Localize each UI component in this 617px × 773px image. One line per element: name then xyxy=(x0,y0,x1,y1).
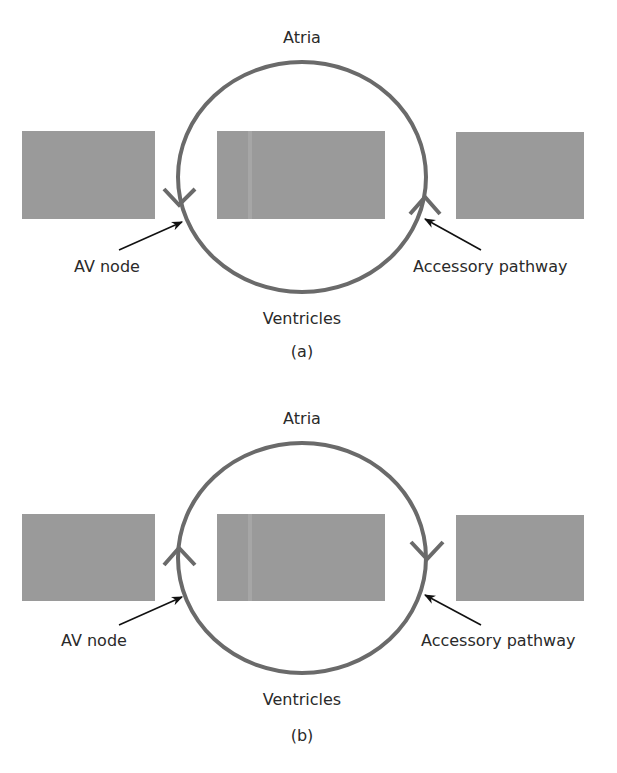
atria-label: Atria xyxy=(283,411,321,427)
right-block xyxy=(456,515,584,601)
accessory-pathway-label: Accessory pathway xyxy=(413,259,567,275)
ventricles-label: Ventricles xyxy=(263,311,341,327)
center-block-highlight xyxy=(248,131,252,219)
av-node-label: AV node xyxy=(74,259,140,275)
accessory-pathway-label: Accessory pathway xyxy=(421,633,575,649)
av-node-label: AV node xyxy=(61,633,127,649)
center-block xyxy=(217,514,385,601)
center-block-highlight xyxy=(248,514,252,601)
av-node-pointer-arrow-icon xyxy=(119,222,182,250)
panel-caption: (a) xyxy=(291,344,313,360)
ventricles-label: Ventricles xyxy=(263,692,341,708)
right-block xyxy=(456,132,584,219)
av-node-pointer-arrow-icon xyxy=(119,597,182,625)
panel-caption: (b) xyxy=(291,728,314,744)
panel-b: Atria AV node Accessory pathway Ventricl… xyxy=(0,381,617,767)
panel-b-diagram xyxy=(0,381,617,767)
accessory-pathway-pointer-arrow-icon xyxy=(425,219,481,250)
tissue-blocks xyxy=(22,131,584,219)
tissue-blocks xyxy=(22,514,584,601)
panel-a: Atria AV node Accessory pathway Ventricl… xyxy=(0,0,617,386)
atria-label: Atria xyxy=(283,30,321,46)
left-block xyxy=(22,514,155,601)
panel-a-diagram xyxy=(0,0,617,386)
center-block xyxy=(217,131,385,219)
chevron-up-icon xyxy=(410,197,440,214)
left-block xyxy=(22,131,155,219)
